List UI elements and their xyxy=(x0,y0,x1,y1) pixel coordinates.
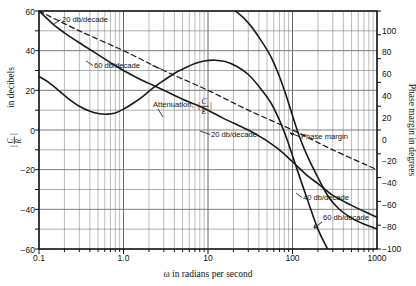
y-right-tick-4: 20 xyxy=(382,113,392,123)
y-left-axis-title-text: in decibels xyxy=(6,67,16,108)
y-left-denominator: R xyxy=(14,139,23,145)
y-right-tick-1: 80 xyxy=(382,47,392,57)
y-left-tick-0: 60 xyxy=(26,7,36,17)
y-right-tick-8: −60 xyxy=(382,200,397,210)
x-tick-1: 1.0 xyxy=(118,253,130,263)
y-left-tick-2: 20 xyxy=(26,86,36,96)
y-left-tick-5: −40 xyxy=(21,205,36,215)
abs-bar-right: | xyxy=(8,133,18,135)
y-right-axis-title: Phase margin in degrees xyxy=(407,84,416,177)
x-tick-4: 1000 xyxy=(368,253,387,263)
annotation-phase-margin-text: Phase margin xyxy=(301,132,348,141)
x-tick-0: 0.1 xyxy=(33,253,45,263)
attenuation-denominator: E xyxy=(201,107,207,116)
y-right-tick-3: 40 xyxy=(382,91,392,101)
annotation-attenuation-text: Attenuation, xyxy=(153,100,194,109)
y-right-tick-7: −40 xyxy=(382,178,397,188)
y-right-tick-5: 0 xyxy=(382,135,387,145)
annotation-slope-60-low-text: 60 db/decade xyxy=(323,213,369,222)
attenuation-abs-bar-left: | xyxy=(198,100,200,110)
y-right-tick-6: −20 xyxy=(382,156,397,166)
y-left-tick-1: 40 xyxy=(26,46,36,56)
annotation-slope-60-top-text: 60 db/decade xyxy=(94,61,140,70)
y-right-tick-9: −80 xyxy=(382,222,397,232)
bode-plot-figure: 60 40 20 0 −20 −40 −60 100 80 60 40 20 0… xyxy=(0,0,416,286)
annotation-slope-20-top: 20 db/decade xyxy=(54,15,108,24)
annotation-slope-40-low-text: 40 db/decade xyxy=(303,193,349,202)
x-tick-2: 10 xyxy=(203,253,213,263)
attenuation-abs-bar-right: | xyxy=(210,100,212,110)
bode-plot-svg: 60 40 20 0 −20 −40 −60 100 80 60 40 20 0… xyxy=(0,0,416,286)
annotation-slope-40-low: 40 db/decade xyxy=(296,193,349,202)
x-tick-3: 100 xyxy=(285,253,299,263)
abs-bar-left: | xyxy=(8,145,18,147)
annotation-slope-20-top-text: 20 db/decade xyxy=(62,15,108,24)
annotation-slope-20-mid-text: 20 db/decade xyxy=(211,130,257,139)
y-left-tick-3: 0 xyxy=(30,126,35,136)
y-right-tick-10: −100 xyxy=(382,244,401,254)
y-right-tick-2: 60 xyxy=(382,69,392,79)
y-right-tick-0: 100 xyxy=(382,26,396,36)
x-axis-title: ω in radians per second xyxy=(163,269,252,279)
y-left-tick-4: −20 xyxy=(21,165,36,175)
